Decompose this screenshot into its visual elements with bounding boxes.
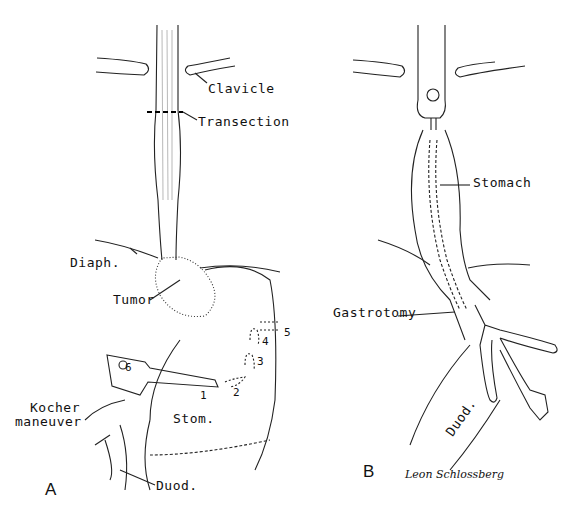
step-3: 3 (257, 355, 264, 368)
stomach-tube-b (411, 130, 490, 340)
tumor-a (155, 257, 215, 317)
step-4: 4 (262, 335, 269, 348)
label-duodenum-a: Duod. (156, 478, 198, 493)
label-stomach-a: Stom. (173, 411, 215, 426)
step-6: 6 (125, 361, 132, 374)
diaphragm-a (95, 240, 280, 272)
clavicle-left-a (96, 58, 149, 75)
clamp-b (475, 305, 557, 420)
clavicle-right-b (455, 62, 525, 77)
label-tumor: Tumor (113, 292, 155, 307)
step-5: 5 (284, 326, 291, 339)
step-1: 1 (200, 389, 207, 402)
label-gastrotomy: Gastrotomy (333, 305, 416, 320)
stomach-a (145, 267, 276, 490)
label-diaphragm: Diaph. (70, 255, 120, 270)
label-clavicle: Clavicle (208, 81, 275, 96)
label-kocher-2: maneuver (15, 414, 82, 429)
step-2: 2 (233, 386, 240, 399)
label-transection: Transection (198, 114, 290, 129)
label-kocher-1: Kocher (30, 400, 80, 415)
clavicle-right-a (185, 58, 235, 75)
artist-signature: Leon Schlossberg (405, 468, 504, 481)
clavicle-left-b (353, 60, 405, 77)
panel-letter-b: B (363, 462, 374, 482)
label-stomach-b: Stomach (473, 175, 531, 190)
esophagus-b (417, 25, 445, 118)
panel-letter-a: A (45, 480, 56, 500)
